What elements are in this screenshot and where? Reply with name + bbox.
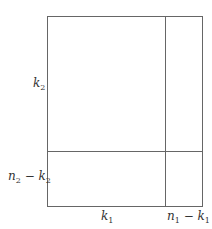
partition-diagram: k2 n2 − k2 k1 n1 − k1 — [0, 0, 212, 229]
label-k1: k1 — [101, 209, 113, 225]
outer-rectangle — [48, 17, 203, 207]
label-n1-minus-k1: n1 − k1 — [167, 209, 210, 225]
label-k2: k2 — [33, 76, 45, 92]
label-n2-minus-k2: n2 − k2 — [8, 169, 51, 185]
